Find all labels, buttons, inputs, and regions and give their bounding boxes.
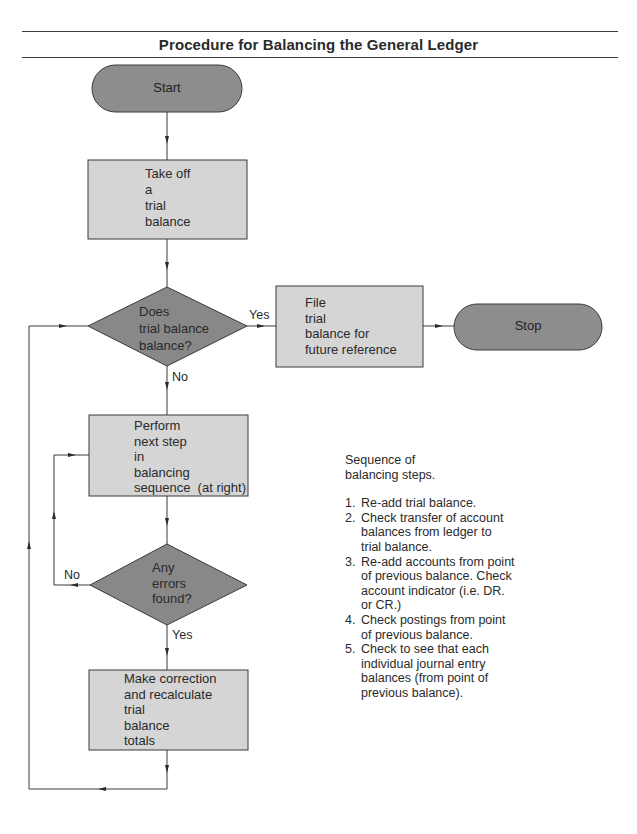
step-line: trial balance. [361, 540, 585, 555]
decision-errors-line: found? [152, 591, 192, 607]
step-line: individual journal entry [361, 657, 585, 672]
step-number: 1. [345, 496, 355, 511]
step-line: Re-add accounts from point [361, 555, 585, 570]
arrowhead-right [257, 324, 265, 328]
takeoff-line: trial [145, 198, 191, 214]
step-line: Check postings from point [361, 613, 585, 628]
arrowhead-down [165, 648, 169, 656]
correction-line: and recalculate [124, 687, 216, 703]
arrowhead-right [59, 324, 67, 328]
step-line: of previous balance. Check [361, 569, 585, 584]
perform-text: Perform next step in balancing sequence … [134, 418, 246, 496]
decision-balance-line: trial balance [139, 320, 209, 337]
errors-no-label: No [64, 568, 80, 582]
step-line: Re-add trial balance. [361, 496, 585, 511]
perform-line: sequence (at right) [134, 480, 246, 496]
decision-errors-line: errors [152, 576, 192, 592]
notes-heading-line: Sequence of [345, 453, 585, 468]
step-number: 5. [345, 642, 355, 657]
step-item: 1. Re-add trial balance. [345, 496, 585, 511]
file-line: File [305, 295, 397, 311]
correction-text: Make correction and recalculate trial ba… [124, 671, 216, 749]
decision-balance-text: Does trial balance balance? [139, 303, 209, 354]
takeoff-text: Take off a trial balance [145, 166, 191, 230]
flowchart-canvas [0, 0, 637, 834]
arrowhead-down [165, 518, 169, 526]
errors-yes-label: Yes [172, 628, 192, 642]
step-number: 2. [345, 511, 355, 526]
arrowhead-up [27, 541, 31, 549]
takeoff-line: balance [145, 214, 191, 230]
connector-errors-no-loop [54, 455, 90, 585]
arrowhead-right [68, 453, 76, 457]
arrowhead-down [165, 765, 169, 773]
step-line: Check transfer of account [361, 511, 585, 526]
start-label: Start [92, 80, 242, 95]
arrowhead-up [52, 511, 56, 519]
file-text: File trial balance for future reference [305, 295, 397, 357]
decision-errors-text: Any errors found? [152, 560, 192, 607]
perform-line: Perform [134, 418, 246, 434]
step-number: 3. [345, 555, 355, 570]
decision-balance-line: balance? [139, 337, 209, 354]
takeoff-line: Take off [145, 166, 191, 182]
decision-errors-line: Any [152, 560, 192, 576]
file-line: balance for [305, 326, 397, 342]
correction-line: balance [124, 718, 216, 734]
arrowhead-down [165, 382, 169, 390]
arrowhead-left [98, 787, 106, 791]
stop-label: Stop [454, 318, 602, 333]
step-line: of previous balance. [361, 628, 585, 643]
step-item: 5. Check to see that each individual jou… [345, 642, 585, 700]
step-line: account indicator (i.e. DR. [361, 584, 585, 599]
step-item: 3. Re-add accounts from point of previou… [345, 555, 585, 613]
steps-list: 1. Re-add trial balance. 2. Check transf… [345, 496, 585, 700]
step-number: 4. [345, 613, 355, 628]
step-line: Check to see that each [361, 642, 585, 657]
step-item: 4. Check postings from point of previous… [345, 613, 585, 642]
takeoff-line: a [145, 182, 191, 198]
step-line: balances (from point of [361, 671, 585, 686]
balancing-steps-notes: Sequence of balancing steps. 1. Re-add t… [345, 453, 585, 701]
arrowhead-left [70, 583, 78, 587]
step-line: or CR.) [361, 598, 585, 613]
correction-line: trial [124, 702, 216, 718]
arrowhead-right [435, 324, 443, 328]
decision-balance-line: Does [139, 303, 209, 320]
notes-heading-line: balancing steps. [345, 468, 585, 483]
notes-heading: Sequence of balancing steps. [345, 453, 585, 482]
arrowhead-down [165, 136, 169, 144]
file-line: future reference [305, 342, 397, 358]
correction-line: Make correction [124, 671, 216, 687]
step-item: 2. Check transfer of account balances fr… [345, 511, 585, 555]
balance-no-label: No [172, 370, 188, 384]
perform-line: in [134, 449, 246, 465]
correction-line: totals [124, 733, 216, 749]
perform-line: balancing [134, 465, 246, 481]
file-line: trial [305, 311, 397, 327]
perform-line: next step [134, 434, 246, 450]
step-line: previous balance). [361, 686, 585, 701]
arrowhead-down [165, 262, 169, 270]
balance-yes-label: Yes [249, 308, 269, 322]
step-line: balances from ledger to [361, 525, 585, 540]
